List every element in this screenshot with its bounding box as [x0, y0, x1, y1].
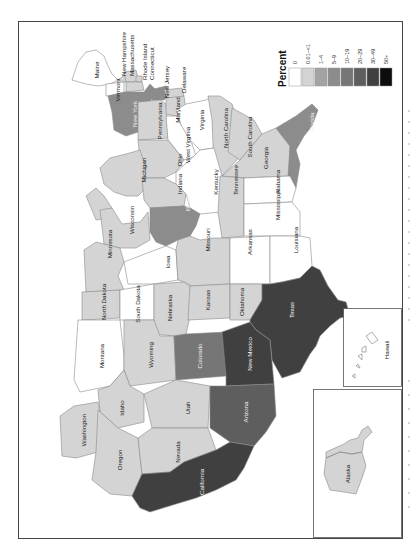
legend-swatch-7	[380, 68, 392, 86]
legend-label-4: 10–19	[344, 49, 350, 64]
label-oklahoma: Oklahoma	[238, 287, 245, 316]
label-connecticut: Connecticut	[148, 47, 155, 80]
us-choropleth-map: Hawaii Alaska Percent 0 0.01–<1 1–4 5–9 …	[0, 0, 416, 551]
label-rhode-island: Rhode Island	[141, 43, 148, 80]
label-new-mexico: New Mexico	[246, 337, 253, 371]
legend-swatch-4	[341, 68, 353, 86]
label-delaware: Delaware	[180, 66, 187, 93]
state-missouri[interactable]	[176, 236, 230, 286]
label-maine: Maine	[93, 61, 100, 78]
label-south-dakota: South Dakota	[134, 285, 141, 323]
legend-label-5: 20–29	[357, 49, 363, 64]
legend-swatch-2	[315, 68, 327, 86]
legend-label-0: 0	[292, 61, 298, 64]
states-layer	[60, 50, 350, 512]
label-wyoming: Wyoming	[147, 342, 154, 368]
label-colorado: Colorado	[196, 343, 203, 369]
legend-labels: 0 0.01–<1 1–4 5–9 10–19 20–29 30–49 50+	[292, 44, 389, 64]
alaska-inset: Alaska	[314, 390, 402, 538]
label-nevada: Nevada	[174, 441, 181, 463]
label-illinois: Illinois	[184, 194, 191, 211]
legend-label-1: 0.01–<1	[305, 44, 311, 64]
label-california: California	[198, 468, 205, 495]
state-pennsylvania[interactable]	[138, 100, 168, 140]
label-virginia: Virginia	[198, 109, 205, 130]
label-north-carolina: North Carolina	[222, 108, 229, 148]
label-new-jersey: New Jersey	[163, 65, 170, 98]
label-idaho: Idaho	[118, 400, 125, 416]
label-texas: Texas	[288, 302, 295, 318]
label-new-hampshire: New Hampshire	[120, 31, 127, 76]
label-south-carolina: South Carolina	[246, 116, 253, 157]
label-vermont: Vermont	[114, 78, 121, 101]
state-utah[interactable]	[144, 380, 210, 428]
label-oregon: Oregon	[116, 449, 123, 470]
label-indiana: Indiana	[176, 173, 183, 194]
label-michigan: Michigan	[140, 157, 147, 182]
label-utah: Utah	[184, 401, 191, 415]
state-alabama[interactable]	[244, 176, 296, 204]
label-washington: Washington	[80, 413, 87, 446]
legend-label-2: 1–4	[318, 55, 324, 64]
label-tennessee: Tennessee	[232, 164, 239, 194]
label-west-virginia-1: West Virginia	[184, 126, 191, 163]
label-missouri: Missouri	[204, 228, 211, 251]
legend-swatch-6	[367, 68, 379, 86]
label-maryland: Maryland	[174, 97, 181, 123]
legend-swatch-5	[354, 68, 366, 86]
label-minnesota: Minnesota	[106, 229, 113, 258]
state-tennessee[interactable]	[218, 176, 244, 238]
label-kansas: Kansas	[204, 290, 211, 311]
legend: Percent 0 0.01–<1 1–4 5–9 10–19 20–29 30…	[277, 44, 392, 87]
label-mississippi: Mississippi	[274, 190, 281, 220]
label-florida: Florida	[308, 112, 315, 131]
legend-label-6: 30–49	[370, 49, 376, 64]
label-hawaii: Hawaii	[383, 341, 390, 360]
label-kentucky: Kentucky	[212, 168, 219, 194]
label-north-dakota: North Dakota	[100, 283, 107, 320]
legend-swatch-1	[302, 68, 314, 86]
label-alaska: Alaska	[344, 464, 351, 483]
label-louisiana: Louisiana	[292, 226, 299, 253]
hawaii-inset: Hawaii	[344, 309, 402, 387]
label-iowa: Iowa	[164, 255, 171, 269]
legend-swatches	[289, 68, 392, 86]
label-nebraska: Nebraska	[166, 294, 173, 321]
legend-label-7: 50+	[383, 55, 389, 64]
state-nebraska[interactable]	[154, 282, 192, 336]
label-ohio: Ohio	[176, 153, 183, 167]
label-massachusetts: Massachusetts	[128, 35, 135, 76]
label-wisconsin: Wisconsin	[128, 205, 135, 234]
legend-title: Percent	[277, 50, 288, 87]
label-montana: Montana	[98, 343, 105, 368]
state-connecticut[interactable]	[126, 82, 144, 92]
label-new-york: New York	[131, 100, 138, 127]
label-arizona: Arizona	[242, 401, 249, 423]
label-arkansas: Arkansas	[246, 229, 253, 255]
legend-swatch-3	[328, 68, 340, 86]
legend-label-3: 5–9	[331, 55, 337, 64]
label-pennsylvania: Pennsylvania	[156, 102, 163, 139]
label-georgia: Georgia	[262, 146, 269, 169]
legend-swatch-0	[289, 68, 301, 86]
